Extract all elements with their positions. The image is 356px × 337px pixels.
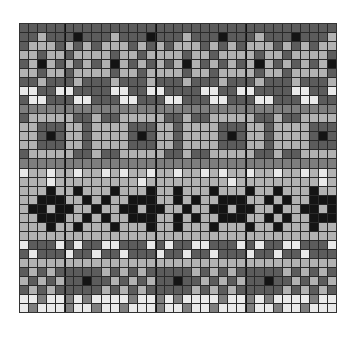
chart-cell	[210, 250, 218, 258]
chart-cell	[255, 259, 263, 267]
chart-cell	[47, 78, 55, 86]
chart-cell	[92, 295, 100, 303]
chart-cell	[201, 178, 209, 186]
chart-cell	[65, 60, 73, 68]
chart-cell	[120, 78, 128, 86]
chart-cell	[92, 51, 100, 59]
chart-cell	[165, 105, 173, 113]
chart-cell	[246, 87, 254, 95]
chart-cell	[47, 60, 55, 68]
chart-cell	[56, 69, 64, 77]
chart-cell	[183, 241, 191, 249]
chart-cell	[228, 223, 236, 231]
chart-cell	[237, 250, 245, 258]
chart-cell	[265, 69, 273, 77]
chart-cell	[319, 33, 327, 41]
chart-cell	[38, 132, 46, 140]
chart-cell	[265, 123, 273, 131]
chart-cell	[274, 169, 282, 177]
chart-cell	[319, 295, 327, 303]
chart-cell	[165, 51, 173, 59]
chart-cell	[192, 187, 200, 195]
chart-cell	[255, 286, 263, 294]
chart-cell	[237, 60, 245, 68]
chart-cell	[102, 196, 110, 204]
chart-cell	[120, 114, 128, 122]
chart-cell	[165, 60, 173, 68]
chart-cell	[183, 259, 191, 267]
chart-cell	[210, 178, 218, 186]
chart-cell	[183, 60, 191, 68]
chart-cell	[228, 51, 236, 59]
chart-cell	[310, 295, 318, 303]
chart-cell	[38, 69, 46, 77]
chart-cell	[310, 60, 318, 68]
chart-cell	[301, 159, 309, 167]
chart-cell	[283, 132, 291, 140]
chart-cell	[255, 277, 263, 285]
chart-cell	[83, 60, 91, 68]
chart-cell	[83, 87, 91, 95]
chart-cell	[56, 132, 64, 140]
chart-cell	[111, 241, 119, 249]
chart-cell	[328, 159, 336, 167]
chart-cell	[65, 105, 73, 113]
chart-cell	[120, 159, 128, 167]
chart-cell	[310, 132, 318, 140]
chart-cell	[29, 295, 37, 303]
chart-cell	[47, 286, 55, 294]
chart-cell	[301, 141, 309, 149]
chart-cell	[56, 250, 64, 258]
chart-cell	[156, 286, 164, 294]
chart-cell	[129, 214, 137, 222]
chart-cell	[292, 286, 300, 294]
chart-cell	[228, 87, 236, 95]
chart-cell	[147, 105, 155, 113]
chart-cell	[219, 214, 227, 222]
chart-cell	[319, 60, 327, 68]
chart-cell	[129, 268, 137, 276]
chart-cell	[255, 123, 263, 131]
chart-cell	[183, 223, 191, 231]
chart-cell	[65, 159, 73, 167]
chart-cell	[201, 51, 209, 59]
chart-cell	[328, 78, 336, 86]
chart-cell	[174, 223, 182, 231]
chart-cell	[274, 42, 282, 50]
chart-cell	[274, 241, 282, 249]
chart-cell	[310, 241, 318, 249]
knitting-chart-grid	[19, 23, 337, 313]
chart-cell	[319, 241, 327, 249]
chart-cell	[138, 250, 146, 258]
chart-cell	[219, 123, 227, 131]
chart-cell	[192, 214, 200, 222]
chart-cell	[255, 250, 263, 258]
chart-cell	[192, 295, 200, 303]
chart-cell	[56, 123, 64, 131]
chart-cell	[129, 24, 137, 32]
chart-cell	[165, 123, 173, 131]
chart-cell	[255, 24, 263, 32]
chart-cell	[310, 105, 318, 113]
chart-cell	[274, 105, 282, 113]
chart-cell	[56, 33, 64, 41]
chart-cell	[265, 150, 273, 158]
chart-cell	[292, 295, 300, 303]
chart-cell	[111, 159, 119, 167]
chart-cell	[183, 304, 191, 312]
chart-cell	[83, 159, 91, 167]
chart-cell	[283, 150, 291, 158]
chart-cell	[111, 150, 119, 158]
chart-cell	[219, 178, 227, 186]
chart-cell	[219, 132, 227, 140]
chart-cell	[237, 114, 245, 122]
chart-cell	[310, 286, 318, 294]
chart-cell	[138, 87, 146, 95]
chart-cell	[29, 141, 37, 149]
chart-cell	[292, 277, 300, 285]
chart-cell	[310, 123, 318, 131]
chart-cell	[210, 114, 218, 122]
chart-cell	[265, 42, 273, 50]
chart-cell	[165, 268, 173, 276]
chart-cell	[111, 141, 119, 149]
